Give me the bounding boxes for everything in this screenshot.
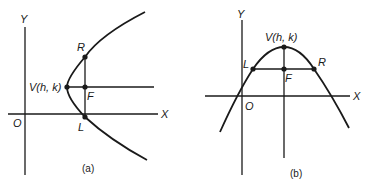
vertex-point-a <box>64 84 69 89</box>
l-point-b <box>250 66 255 71</box>
parabola-figure: Y X O V(h, k) F R L (a) Y X O V(h, k) F … <box>0 0 367 189</box>
r-label-a: R <box>77 41 85 53</box>
panel-a <box>8 12 158 175</box>
l-label-b: L <box>243 58 249 70</box>
r-point-a <box>82 54 87 59</box>
parabola-curve-a <box>67 12 147 160</box>
vertex-point-b <box>281 44 286 49</box>
x-axis-label-a: X <box>160 108 169 120</box>
focus-point-a <box>82 84 87 89</box>
focus-label-a: F <box>87 90 95 102</box>
l-label-a: L <box>78 121 84 133</box>
x-axis-label-b: X <box>352 90 361 102</box>
focus-label-b: F <box>285 72 293 84</box>
vertex-label-a: V(h, k) <box>29 81 62 93</box>
focus-point-b <box>281 66 286 71</box>
caption-b: (b) <box>290 168 302 179</box>
origin-label-a: O <box>13 117 22 129</box>
r-point-b <box>311 66 316 71</box>
y-axis-label-b: Y <box>237 8 245 20</box>
panel-b <box>205 20 350 175</box>
caption-a: (a) <box>82 163 94 174</box>
y-axis-label-a: Y <box>20 13 28 25</box>
r-label-b: R <box>318 56 326 68</box>
vertex-label-b: V(h, k) <box>265 31 298 43</box>
l-point-a <box>82 114 87 119</box>
origin-label-b: O <box>245 100 254 112</box>
